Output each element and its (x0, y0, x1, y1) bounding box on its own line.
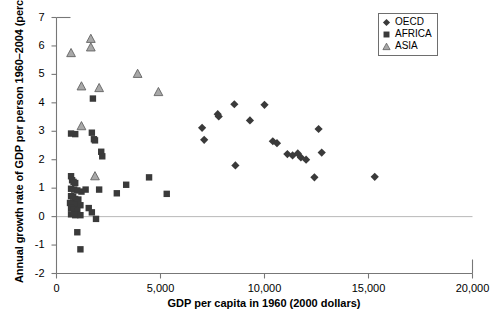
data-point (74, 229, 80, 235)
data-point (371, 173, 379, 181)
data-point (99, 153, 105, 159)
data-point (310, 173, 318, 181)
square-icon (382, 30, 391, 39)
data-point (96, 186, 102, 192)
scatter-chart-figure: Annual growth rate of GDP per person 196… (0, 0, 493, 318)
data-point (198, 124, 206, 132)
series-oecd (198, 100, 379, 181)
data-point (77, 122, 86, 130)
data-point (86, 34, 95, 42)
data-point (164, 191, 170, 197)
data-point (95, 83, 104, 91)
data-point (92, 137, 98, 143)
data-point (154, 87, 163, 95)
legend-label-asia: ASIA (395, 41, 418, 51)
legend-item-oecd[interactable]: OECD (382, 16, 432, 28)
series-asia (67, 34, 163, 180)
data-point (314, 125, 322, 133)
data-point (72, 131, 78, 137)
data-point (114, 190, 120, 196)
data-point (86, 43, 95, 51)
data-point (123, 182, 129, 188)
data-point (77, 212, 83, 218)
data-point (82, 186, 88, 192)
data-point (91, 172, 100, 180)
data-point (77, 246, 83, 252)
data-point (146, 174, 152, 180)
data-point (89, 209, 95, 215)
data-point (231, 161, 239, 169)
data-point (72, 180, 78, 186)
data-point (93, 216, 99, 222)
data-point (230, 100, 238, 108)
diamond-icon (382, 18, 391, 27)
legend-label-oecd: OECD (395, 17, 424, 27)
data-point (133, 69, 142, 77)
data-point (89, 130, 95, 136)
data-point (260, 101, 268, 109)
data-point (246, 116, 254, 124)
legend-label-africa: AFRICA (395, 29, 432, 39)
data-point (200, 136, 208, 144)
legend-item-africa[interactable]: AFRICA (382, 28, 432, 40)
data-point (318, 149, 326, 157)
triangle-icon (382, 42, 391, 51)
data-point (90, 95, 96, 101)
series-africa (67, 95, 170, 252)
data-point (77, 82, 86, 90)
data-point (67, 48, 76, 56)
legend-item-asia[interactable]: ASIA (382, 40, 432, 52)
chart-legend: OECD AFRICA ASIA (378, 13, 438, 56)
